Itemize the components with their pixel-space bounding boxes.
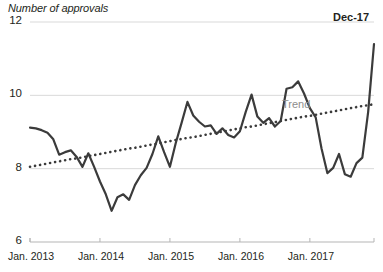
data-line	[30, 44, 374, 211]
gridlines	[30, 22, 374, 169]
x-axis-tick-label: Jan. 2014	[78, 250, 124, 262]
y-axis-tick-label: 10	[0, 87, 22, 99]
y-axis-tick-label: 12	[0, 14, 22, 26]
x-axis-tick-label: Jan. 2017	[288, 250, 334, 262]
endpoint-annotation-dec-17: Dec-17	[333, 11, 369, 23]
x-axis-tick-label: Jan. 2016	[218, 250, 264, 262]
line-chart-plot	[0, 0, 383, 272]
approvals-line-series	[30, 44, 374, 211]
x-axis	[30, 238, 374, 242]
trend-line	[30, 104, 374, 167]
y-axis-tick-label: 6	[0, 234, 22, 246]
y-axis-tick-label: 8	[0, 161, 22, 173]
x-axis-tick-label: Jan. 2013	[8, 250, 54, 262]
trend-annotation: Trend	[282, 98, 310, 110]
x-axis-tick-label: Jan. 2015	[148, 250, 194, 262]
chart-figure: Number of approvals 121086 Jan. 2013Jan.…	[0, 0, 383, 272]
trend-line-series	[30, 104, 374, 167]
